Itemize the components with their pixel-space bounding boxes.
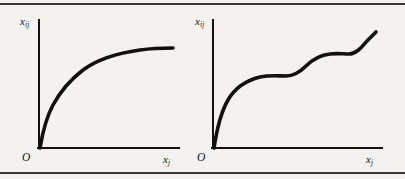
y-axis-label-left: xij [20, 16, 29, 28]
y-axis-label-right: xij [195, 16, 204, 28]
chart-panel-right: xij xj O [182, 12, 372, 164]
chart-svg-right [182, 12, 382, 164]
bottom-horizontal-rule [0, 172, 405, 174]
top-horizontal-rule [0, 3, 405, 5]
chart-panel-left: xij xj O [8, 12, 198, 164]
chart-svg-left [8, 12, 198, 164]
x-axis-label-right: xj [366, 154, 373, 166]
x-axis-label-left: xj [163, 154, 170, 166]
curve-staircase-increasing [214, 32, 376, 148]
figure-container: xij xj O xij xj O [0, 0, 405, 179]
curve-concave-saturating [40, 48, 173, 148]
origin-label-left: O [22, 152, 30, 164]
origin-label-right: O [197, 152, 205, 164]
